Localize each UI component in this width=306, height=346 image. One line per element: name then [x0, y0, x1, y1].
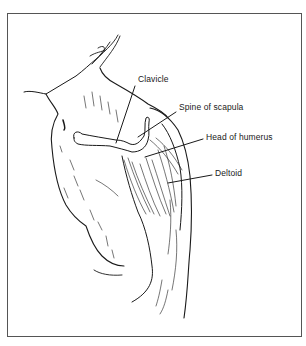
leader-clavicle	[116, 86, 135, 143]
clavicle-bone	[74, 117, 150, 152]
label-deltoid: Deltoid	[215, 168, 242, 178]
shoulder-illustration	[0, 0, 306, 346]
label-clavicle: Clavicle	[138, 74, 169, 84]
label-spine-of-scapula: Spine of scapula	[179, 102, 243, 112]
head-outline	[24, 60, 95, 94]
leader-spine	[138, 112, 176, 137]
hair-strands	[90, 35, 120, 67]
leader-head	[145, 139, 203, 157]
deltoid-hatching	[124, 138, 182, 314]
label-head-of-humerus: Head of humerus	[206, 132, 273, 142]
back-outline	[46, 94, 124, 266]
armpit-line	[122, 156, 152, 302]
